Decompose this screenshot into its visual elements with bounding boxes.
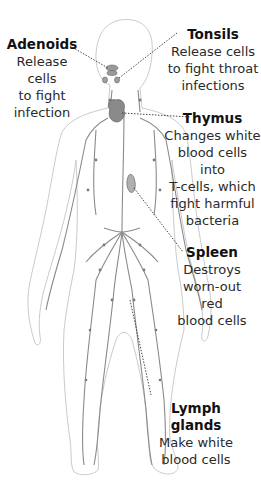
label-title: Tonsils [166, 26, 260, 43]
label-desc-line: Destroys [172, 261, 252, 278]
label-desc-line: to fight [2, 87, 82, 104]
label-desc-line: Release cells [2, 53, 82, 87]
label-desc-line: Release cells [166, 43, 260, 60]
label-thymus: Thymus Changes white blood cells into T-… [164, 110, 261, 229]
label-desc-line: blood cells [172, 312, 252, 329]
label-title: Lymph glands [146, 400, 246, 434]
label-desc-line: blood cells [146, 451, 246, 468]
label-desc-line: T-cells, which [164, 178, 261, 195]
adenoids-organ [106, 65, 118, 76]
label-desc-line: Changes white [164, 127, 261, 144]
label-desc-line: infections [166, 77, 260, 94]
label-title: Adenoids [2, 36, 82, 53]
label-desc-line: worn-out red [172, 278, 252, 312]
label-adenoids: Adenoids Release cells to fight infectio… [2, 36, 82, 121]
thymus-organ [108, 100, 124, 122]
label-desc-line: fight harmful [164, 195, 261, 212]
label-tonsils: Tonsils Release cells to fight throat in… [166, 26, 260, 94]
label-desc-line: to fight throat [166, 60, 260, 77]
label-desc-line: bacteria [164, 212, 261, 229]
spleen-organ [127, 174, 135, 192]
label-title: Thymus [164, 110, 261, 127]
label-desc-line: blood cells into [164, 144, 261, 178]
label-desc-line: infection [2, 104, 82, 121]
label-desc-line: Make white [146, 434, 246, 451]
label-spleen: Spleen Destroys worn-out red blood cells [172, 244, 252, 329]
label-title: Spleen [172, 244, 252, 261]
label-lymph-glands: Lymph glands Make white blood cells [146, 400, 246, 468]
leader-lymph-glands [130, 300, 151, 395]
tonsils-organ [103, 77, 120, 83]
